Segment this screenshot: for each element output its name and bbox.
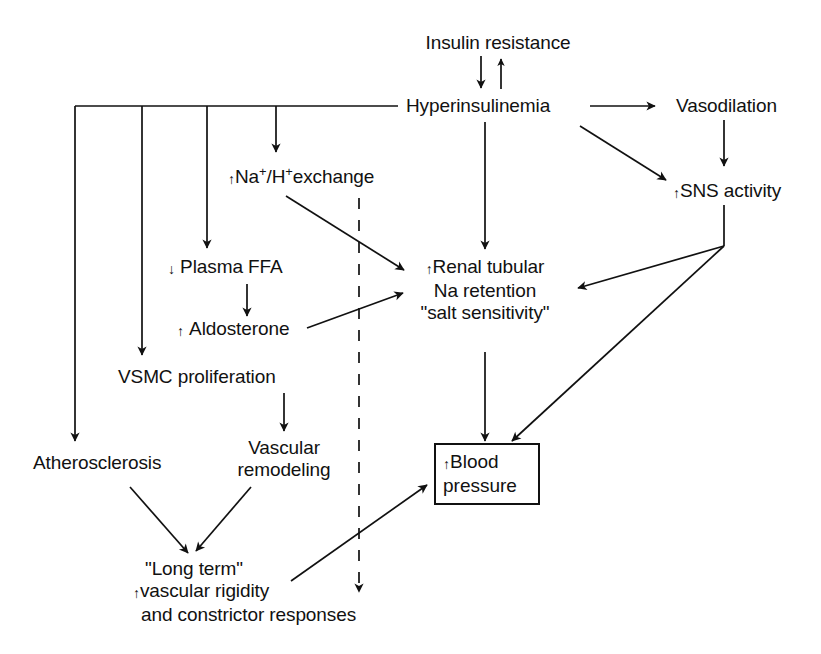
vascular-remodeling-line2: remodeling xyxy=(222,459,346,481)
long-term-line1: "Long term" xyxy=(133,558,356,580)
plasma-ffa-down-arrow-icon: ↓ xyxy=(168,258,175,280)
long-term-line3: and constrictor responses xyxy=(133,604,356,626)
node-aldosterone: ↑ Aldosterone xyxy=(177,318,289,342)
edge-hyper-to-sns xyxy=(580,126,666,180)
aldosterone-up-arrow-icon: ↑ xyxy=(177,320,184,342)
na-h-exchange-na: Na xyxy=(235,166,259,187)
node-vascular-remodeling: Vascular remodeling xyxy=(222,437,346,481)
node-insulin-resistance: Insulin resistance xyxy=(413,32,583,54)
sns-activity-label: SNS activity xyxy=(680,180,781,201)
node-renal-tubular: ↑Renal tubular Na retention "salt sensit… xyxy=(403,256,567,324)
node-atherosclerosis: Atherosclerosis xyxy=(33,452,161,474)
na-h-up-arrow-icon: ↑ xyxy=(228,168,235,190)
insulin-resistance-label: Insulin resistance xyxy=(426,32,571,53)
node-hyperinsulinemia: Hyperinsulinemia xyxy=(406,95,550,117)
edge-aldosterone-to-renal xyxy=(307,293,403,328)
pathway-diagram: Insulin resistance Hyperinsulinemia Vaso… xyxy=(0,0,821,654)
plasma-ffa-label: Plasma FFA xyxy=(180,256,282,277)
blood-pressure-text: ↑Blood pressure xyxy=(436,445,538,504)
node-plasma-ffa: ↓ Plasma FFA xyxy=(168,256,283,280)
long-term-up-arrow-icon: ↑ xyxy=(133,582,140,604)
na-h-exchange-word: exchange xyxy=(293,166,375,187)
node-na-h-exchange: ↑Na+/H+exchange xyxy=(228,166,374,190)
edge-atherosclerosis-to-long-term xyxy=(130,487,188,553)
node-blood-pressure-box: ↑Blood pressure xyxy=(434,443,540,505)
node-sns-activity: ↑SNS activity xyxy=(673,180,781,204)
blood-pressure-line1: ↑Blood xyxy=(443,451,528,475)
node-vasodilation: Vasodilation xyxy=(676,95,777,117)
long-term-line2: ↑vascular rigidity xyxy=(133,580,356,604)
renal-tubular-text1: Renal tubular xyxy=(433,256,545,277)
vascular-remodeling-line1: Vascular xyxy=(222,437,346,459)
renal-tubular-line1: ↑Renal tubular xyxy=(403,256,567,280)
vsmc-proliferation-label: VSMC proliferation xyxy=(118,366,276,387)
long-term-text2: vascular rigidity xyxy=(140,580,269,601)
node-vsmc-proliferation: VSMC proliferation xyxy=(118,366,276,388)
edge-na-h-to-renal xyxy=(286,196,404,270)
node-long-term: "Long term" ↑vascular rigidity and const… xyxy=(133,558,356,626)
blood-pressure-line2: pressure xyxy=(443,475,528,497)
vasodilation-label: Vasodilation xyxy=(676,95,777,116)
hyperinsulinemia-label: Hyperinsulinemia xyxy=(406,95,550,116)
sns-up-arrow-icon: ↑ xyxy=(673,182,680,204)
blood-pressure-text1: Blood xyxy=(450,451,499,472)
atherosclerosis-label: Atherosclerosis xyxy=(33,452,161,473)
renal-up-arrow-icon: ↑ xyxy=(426,258,433,280)
edge-vascular-remodeling-to-long-term xyxy=(196,487,251,551)
aldosterone-label: Aldosterone xyxy=(189,318,289,339)
renal-tubular-line2: Na retention xyxy=(403,280,567,302)
renal-tubular-line3: "salt sensitivity" xyxy=(403,302,567,324)
blood-pressure-up-arrow-icon: ↑ xyxy=(443,453,450,475)
na-h-exchange-h: H xyxy=(272,166,286,187)
na-h-exchange-sup-h: + xyxy=(285,164,292,179)
